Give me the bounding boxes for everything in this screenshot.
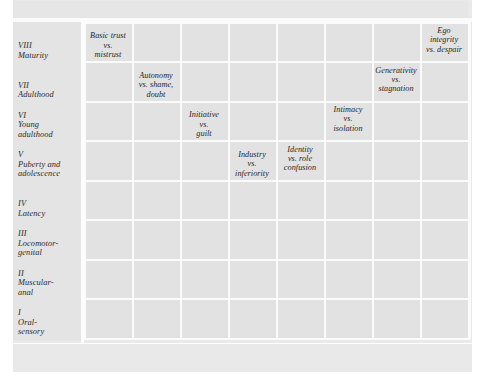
crisis-label-line: Initiative: [175, 110, 233, 119]
matrix-cell: [182, 182, 228, 220]
matrix-cell: [86, 142, 132, 180]
stage-name-line: genital: [18, 248, 80, 258]
stage-row-label: VIIAdulthood: [18, 81, 80, 100]
matrix-cell: [134, 221, 180, 259]
matrix-cell: [326, 261, 372, 299]
stage-row-label: IIILocomotor-genital: [18, 229, 80, 258]
stage-name-line: Muscular-: [18, 278, 80, 288]
crisis-label: Initiativevs.guilt: [175, 110, 233, 138]
page-header-band: [13, 1, 468, 18]
matrix-cell: [278, 24, 324, 62]
stage-numeral: III: [18, 229, 80, 239]
matrix-cell: [86, 300, 132, 338]
matrix-cell: [374, 142, 420, 180]
crisis-label-line: vs. despair: [415, 45, 473, 54]
matrix-cell: [230, 63, 276, 101]
stage-numeral: VIII: [18, 41, 80, 51]
matrix-cell: [422, 103, 468, 141]
crisis-label-line: Autonomy: [127, 71, 185, 80]
stage-name-line: Latency: [18, 209, 80, 219]
crisis-label-line: Basic trust: [79, 31, 137, 40]
matrix-cell: [86, 221, 132, 259]
matrix-cell: [326, 182, 372, 220]
crisis-label-line: doubt: [127, 90, 185, 99]
matrix-cell: [422, 142, 468, 180]
matrix-cell: [182, 142, 228, 180]
crisis-label-line: vs.: [367, 75, 425, 84]
matrix-cell: [134, 24, 180, 62]
matrix-cell: [422, 221, 468, 259]
matrix-cell: [374, 24, 420, 62]
matrix-cell: [182, 221, 228, 259]
stage-name-line: adolescence: [18, 169, 80, 179]
stage-row-label: VIIIMaturity: [18, 41, 80, 60]
matrix-cell: [230, 300, 276, 338]
matrix-cell: [182, 300, 228, 338]
crisis-label-line: vs. shame,: [127, 80, 185, 89]
stage-row-label: VIYoungadulthood: [18, 111, 80, 140]
crisis-label-line: isolation: [319, 124, 377, 133]
matrix-cell: [422, 261, 468, 299]
matrix-cell: [230, 24, 276, 62]
stage-row-label: VPuberty andadolescence: [18, 150, 80, 179]
stage-name-line: Oral-: [18, 318, 80, 328]
stage-name-line: Adulthood: [18, 90, 80, 100]
matrix-cell: [278, 182, 324, 220]
matrix-cell: [374, 261, 420, 299]
crisis-label-line: Ego: [415, 26, 473, 35]
crisis-label-line: stagnation: [367, 84, 425, 93]
crisis-label-line: Generativity: [367, 66, 425, 75]
matrix-cell: [134, 261, 180, 299]
matrix-cell: [278, 103, 324, 141]
stage-numeral: V: [18, 150, 80, 160]
matrix-cell: [326, 24, 372, 62]
crisis-label-line: guilt: [175, 129, 233, 138]
stage-numeral: I: [18, 308, 80, 318]
matrix-cell: [374, 103, 420, 141]
crisis-label-line: confusion: [271, 163, 329, 172]
stage-name-line: anal: [18, 288, 80, 298]
matrix-cell: [374, 182, 420, 220]
matrix-cell: [374, 300, 420, 338]
stage-name-line: Maturity: [18, 51, 80, 61]
crisis-label: Intimacyvs.isolation: [319, 105, 377, 133]
matrix-cell: [182, 63, 228, 101]
stage-label-column: VIIIMaturityVIIAdulthoodVIYoungadulthood…: [13, 22, 81, 340]
matrix-cell: [422, 182, 468, 220]
matrix-cell: [86, 103, 132, 141]
crisis-label: Egointegrityvs. despair: [415, 26, 473, 54]
stage-numeral: VII: [18, 81, 80, 91]
stage-name-line: Puberty and: [18, 160, 80, 170]
stage-numeral: IV: [18, 199, 80, 209]
matrix-cell: [326, 63, 372, 101]
crisis-label-line: vs.: [319, 114, 377, 123]
matrix-grid: Basic trustvs.mistrustAutonomyvs. shame,…: [84, 22, 471, 340]
matrix-cell: [278, 300, 324, 338]
crisis-label-line: Intimacy: [319, 105, 377, 114]
stage-numeral: II: [18, 269, 80, 279]
crisis-label: Generativityvs.stagnation: [367, 66, 425, 94]
crisis-label-line: integrity: [415, 35, 473, 44]
crisis-label: Basic trustvs.mistrust: [79, 31, 137, 59]
figure-page: VIIIMaturityVIIAdulthoodVIYoungadulthood…: [13, 0, 472, 372]
stage-numeral: VI: [18, 111, 80, 121]
stage-row-label: IIMuscular-anal: [18, 269, 80, 298]
crisis-label: Autonomyvs. shame,doubt: [127, 71, 185, 99]
crisis-label-line: vs. role: [271, 154, 329, 163]
stage-name-line: adulthood: [18, 130, 80, 140]
stage-name-line: sensory: [18, 327, 80, 337]
matrix-cell: [134, 142, 180, 180]
matrix-cell: [230, 103, 276, 141]
crisis-label: Identityvs. roleconfusion: [271, 145, 329, 173]
matrix-cell: [182, 261, 228, 299]
page-footer-margin: [13, 344, 472, 372]
erikson-stage-matrix: VIIIMaturityVIIAdulthoodVIYoungadulthood…: [13, 22, 472, 372]
matrix-cell: [86, 261, 132, 299]
matrix-cell: [182, 24, 228, 62]
matrix-cell: [422, 63, 468, 101]
matrix-cell: [326, 300, 372, 338]
matrix-cell: [230, 261, 276, 299]
matrix-cell: [134, 103, 180, 141]
crisis-label-line: vs.: [175, 120, 233, 129]
stage-name-line: Locomotor-: [18, 239, 80, 249]
